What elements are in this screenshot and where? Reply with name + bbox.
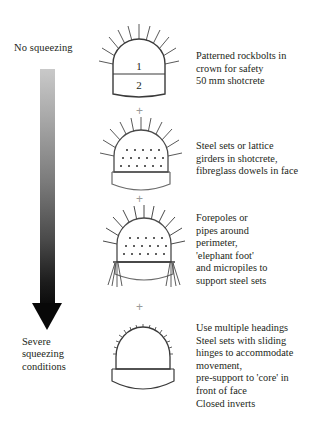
severe-line-1: Severe <box>22 336 66 348</box>
gradient-shaft <box>40 69 55 306</box>
desc4-line-7: Closed inverts <box>196 398 320 411</box>
no-squeezing-label: No squeezing <box>14 42 73 53</box>
desc4-line-2: Steel sets with sliding <box>196 335 320 348</box>
closed-invert-outline <box>112 369 174 389</box>
tunnel-crown-outline <box>114 130 168 172</box>
arrow-head-icon <box>32 303 62 330</box>
tunnel-crown-outline <box>116 327 170 369</box>
tunnel-crown-outline <box>117 218 171 262</box>
zone-label-2: 2 <box>136 79 142 91</box>
tunnel-figure-2-svg <box>96 116 186 196</box>
desc3-line-6: support steel sets <box>196 275 320 288</box>
desc1-line-2: crown for safety <box>196 63 320 76</box>
squeezing-support-diagram: No squeezing Severe squeezing conditions <box>0 0 322 434</box>
desc4-line-4: movement, <box>196 360 320 373</box>
lower-arch-outline <box>115 262 173 280</box>
tunnel-section-forepoles-micropiles <box>96 203 192 299</box>
tunnel-figure-3-svg <box>96 203 192 295</box>
desc2-line-1: Steel sets or lattice <box>196 140 320 153</box>
severe-line-3: conditions <box>22 361 66 373</box>
plus-separator-3: + <box>136 300 143 314</box>
severe-squeezing-label: Severe squeezing conditions <box>22 336 66 373</box>
desc4-line-1: Use multiple headings <box>196 322 320 335</box>
severe-line-2: squeezing <box>22 348 66 360</box>
description-stage-3: Forepoles or pipes around perimeter, 'el… <box>196 212 320 288</box>
desc3-line-3: perimeter, <box>196 237 320 250</box>
lower-arch-outline <box>112 172 170 190</box>
description-stage-1: Patterned rockbolts in crown for safety … <box>196 50 320 88</box>
desc1-line-1: Patterned rockbolts in <box>196 50 320 63</box>
desc4-line-5: pre-support to 'core' in <box>196 372 320 385</box>
tunnel-figure-4-svg <box>96 323 188 401</box>
tunnel-section-rockbolts: 1 2 <box>96 22 182 104</box>
severity-gradient-arrow <box>29 69 69 331</box>
desc3-line-2: pipes around <box>196 225 320 238</box>
micropile-rays-left <box>108 263 122 287</box>
description-stage-2: Steel sets or lattice girders in shotcre… <box>196 140 320 178</box>
desc3-line-1: Forepoles or <box>196 212 320 225</box>
desc3-line-4: 'elephant foot' <box>196 250 320 263</box>
desc1-line-3: 50 mm shotcrete <box>196 75 320 88</box>
tunnel-section-closed-invert <box>96 323 188 405</box>
tunnel-section-steel-sets-dowels <box>96 116 186 200</box>
desc4-line-3: hinges to accommodate <box>196 347 320 360</box>
desc3-line-5: and micropiles to <box>196 262 320 275</box>
tunnel-figure-1-svg: 1 2 <box>96 22 182 100</box>
description-stage-4: Use multiple headings Steel sets with sl… <box>196 322 320 410</box>
desc2-line-2: girders in shotcrete, <box>196 153 320 166</box>
desc2-line-3: fibreglass dowels in face <box>196 165 320 178</box>
desc4-line-6: front of face <box>196 385 320 398</box>
micropile-rays-right <box>166 263 180 287</box>
zone-label-1: 1 <box>136 60 142 72</box>
